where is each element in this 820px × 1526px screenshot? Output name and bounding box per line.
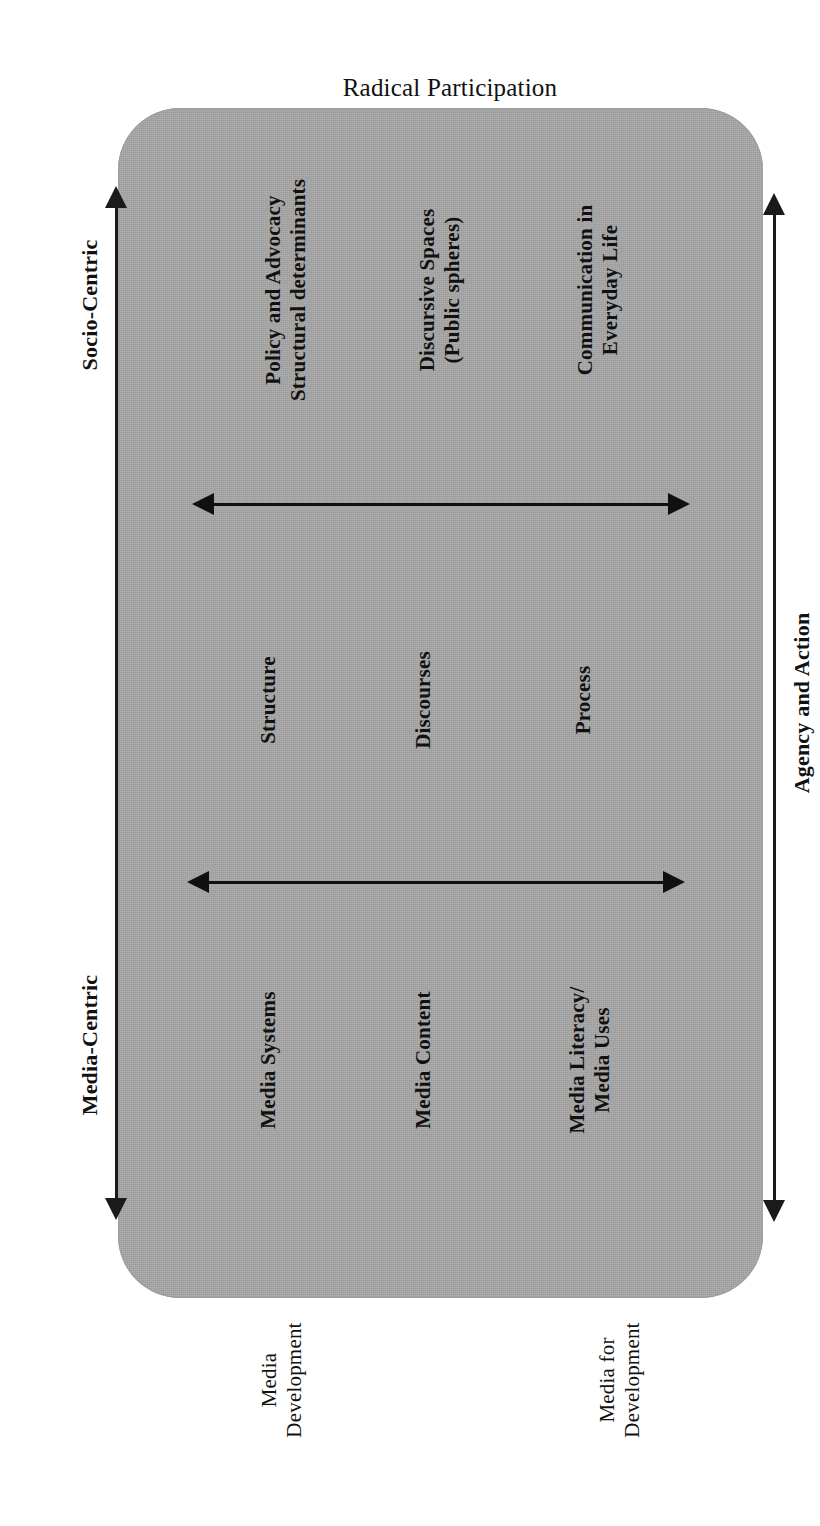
- upper-horizontal-arrow-shaft: [210, 503, 670, 506]
- concept-policy-and-advocacy-line2: Structural determinants: [286, 179, 311, 401]
- concept-process: Process: [571, 666, 596, 735]
- axis-label-socio-centric: Socio-Centric: [77, 240, 103, 371]
- upper-horizontal-arrow-head-right: [668, 493, 690, 515]
- concept-media-systems-line1: Media Systems: [256, 991, 281, 1128]
- concept-media-literacy-line2: Media Uses: [590, 986, 615, 1133]
- outer-label-media-for-development-line1: Media for: [595, 1322, 620, 1437]
- axis-label-media-centric: Media-Centric: [77, 975, 103, 1116]
- concept-media-content: Media Content: [411, 991, 436, 1128]
- right-axis-arrow-head-down: [763, 1200, 785, 1222]
- concept-media-systems: Media Systems: [256, 991, 281, 1128]
- lower-horizontal-arrow-head-right: [663, 871, 685, 893]
- figure-title: Radical Participation: [343, 73, 558, 103]
- concept-discursive-spaces-line2: (Public spheres): [440, 209, 465, 372]
- right-axis-arrow-shaft: [773, 210, 776, 1205]
- left-axis-arrow-head-down: [105, 1198, 127, 1220]
- concept-media-literacy-line1: Media Literacy/: [565, 986, 590, 1133]
- concept-communication-in-everyday-life: Communication in Everyday Life: [573, 205, 623, 376]
- concept-structure: Structure: [256, 656, 281, 744]
- concept-media-content-line1: Media Content: [411, 991, 436, 1128]
- concept-communication-line1: Communication in: [573, 205, 598, 376]
- concept-policy-and-advocacy: Policy and Advocacy Structural determina…: [261, 179, 311, 401]
- concept-communication-line2: Everyday Life: [598, 205, 623, 376]
- outer-label-media-for-development: Media for Development: [595, 1322, 645, 1437]
- lower-horizontal-arrow-head-left: [187, 871, 209, 893]
- right-axis-arrow-head-up: [763, 193, 785, 215]
- concept-discursive-spaces-line1: Discursive Spaces: [415, 209, 440, 372]
- axis-label-agency-and-action: Agency and Action: [789, 613, 815, 794]
- lower-horizontal-arrow-shaft: [205, 881, 665, 884]
- outer-label-media-development-line2: Development: [282, 1322, 307, 1437]
- outer-label-media-development-line1: Media: [257, 1322, 282, 1437]
- diagram-canvas: Radical Participation Socio-Centric Medi…: [0, 0, 820, 1526]
- concept-policy-and-advocacy-line1: Policy and Advocacy: [261, 179, 286, 401]
- upper-horizontal-arrow-head-left: [192, 493, 214, 515]
- outer-label-media-for-development-line2: Development: [620, 1322, 645, 1437]
- left-axis-arrow-shaft: [115, 203, 118, 1203]
- left-axis-arrow-head-up: [105, 186, 127, 208]
- outer-label-media-development: Media Development: [257, 1322, 307, 1437]
- concept-discursive-spaces: Discursive Spaces (Public spheres): [415, 209, 465, 372]
- concept-media-literacy-media-uses: Media Literacy/ Media Uses: [565, 986, 615, 1133]
- concept-discourses: Discourses: [411, 651, 436, 749]
